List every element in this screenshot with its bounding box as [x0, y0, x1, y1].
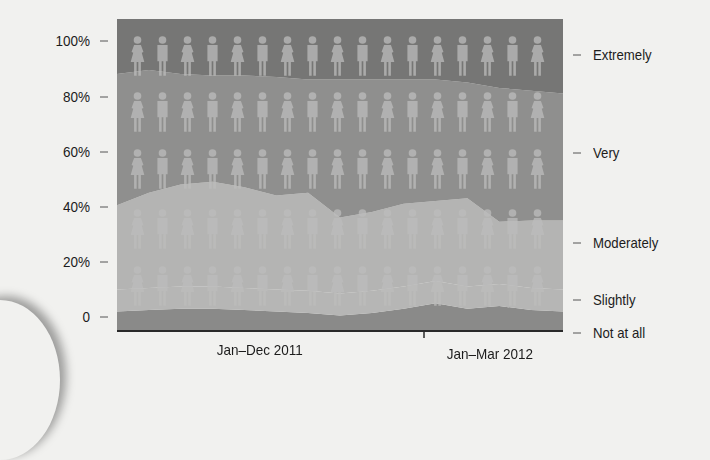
y-label-40: 40%	[9, 199, 90, 215]
legend-label-very: Very	[593, 145, 619, 161]
y-label-60: 60%	[9, 144, 90, 160]
y-label-20: 20%	[9, 254, 90, 270]
legend-label-extremely: Extremely	[593, 47, 652, 63]
x-label-2011: Jan–Dec 2011	[217, 342, 303, 358]
y-label-0: 0	[9, 309, 90, 325]
y-label-100: 100%	[9, 33, 90, 49]
x-label-2012: Jan–Mar 2012	[447, 346, 533, 362]
legend-label-slightly: Slightly	[593, 292, 636, 308]
y-label-80: 80%	[9, 89, 90, 105]
legend-label-moderately: Moderately	[593, 235, 658, 251]
legend-ticks	[573, 55, 581, 333]
legend-label-not-at-all: Not at all	[593, 325, 645, 341]
y-axis-ticks	[100, 41, 108, 317]
